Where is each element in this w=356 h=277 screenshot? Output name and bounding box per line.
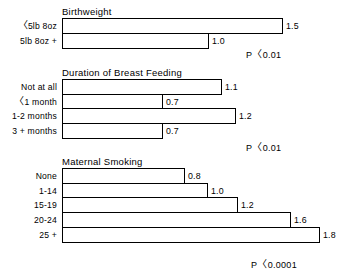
category-label: 25 + — [0, 227, 60, 243]
bar-value-label: 1.0 — [209, 33, 225, 49]
bar-value-label: 1.8 — [320, 227, 336, 243]
less-than-glyph: 〈 — [252, 142, 262, 153]
category-label: 1-2 months — [0, 108, 60, 124]
category-label: Not at all — [0, 79, 60, 95]
bar — [62, 212, 291, 228]
bar-value-label: 1.6 — [291, 212, 307, 228]
bar — [62, 94, 163, 110]
category-label: 〈5lb 8oz — [0, 18, 60, 34]
bar — [62, 33, 209, 49]
bar-row: 5lb 8oz +1.0 — [0, 33, 356, 49]
panel-title: Maternal Smoking — [62, 156, 143, 167]
category-label: 15-19 — [0, 197, 60, 213]
bar-row: 15-191.2 — [0, 197, 356, 213]
bar — [62, 123, 163, 139]
bar-row: None0.8 — [0, 168, 356, 184]
bar-value-label: 0.8 — [185, 168, 201, 184]
category-label: 1-14 — [0, 183, 60, 199]
bar-value-label: 0.7 — [163, 123, 179, 139]
bar-row: 1-2 months1.2 — [0, 108, 356, 124]
less-than-glyph: 〈 — [257, 259, 267, 270]
bar — [62, 197, 238, 213]
bar-value-label: 1.5 — [283, 18, 299, 34]
bar — [62, 183, 208, 199]
category-label: 3 + months — [0, 123, 60, 139]
bar-value-label: 0.7 — [163, 94, 179, 110]
panel-title: Duration of Breast Feeding — [62, 67, 182, 78]
category-label: 5lb 8oz + — [0, 33, 60, 49]
category-label: 〈1 month — [0, 94, 60, 110]
bar-value-label: 1.1 — [222, 79, 238, 95]
less-than-glyph: 〈 — [18, 20, 28, 31]
panel-rows: None0.81-141.015-191.220-241.625 +1.8 — [0, 168, 356, 243]
bar — [62, 79, 222, 95]
p-value-annotation: P〈0.01 — [246, 46, 281, 61]
less-than-glyph: 〈 — [252, 49, 262, 60]
bar — [62, 168, 185, 184]
bar-value-label: 1.2 — [238, 197, 254, 213]
category-label: None — [0, 168, 60, 184]
category-label: 20-24 — [0, 212, 60, 228]
p-value-annotation: P〈0.0001 — [251, 256, 297, 271]
bar-chart-figure: Birthweight〈5lb 8oz1.55lb 8oz +1.0P〈0.01… — [0, 0, 356, 277]
bar-value-label: 1.0 — [208, 183, 224, 199]
bar-row: Not at all1.1 — [0, 79, 356, 95]
bar-value-label: 1.2 — [236, 108, 252, 124]
bar-row: 1-141.0 — [0, 183, 356, 199]
bar — [62, 108, 236, 124]
bar-row: 25 +1.8 — [0, 227, 356, 243]
panel-rows: 〈5lb 8oz1.55lb 8oz +1.0 — [0, 18, 356, 49]
panel-rows: Not at all1.1〈1 month0.71-2 months1.23 +… — [0, 79, 356, 139]
panel-title: Birthweight — [62, 6, 112, 17]
bar-row: 〈1 month0.7 — [0, 94, 356, 110]
p-value-annotation: P〈0.01 — [246, 139, 281, 154]
bar — [62, 18, 283, 34]
bar-row: 3 + months0.7 — [0, 123, 356, 139]
bar-row: 〈5lb 8oz1.5 — [0, 18, 356, 34]
less-than-glyph: 〈 — [14, 96, 24, 107]
bar — [62, 227, 320, 243]
bar-row: 20-241.6 — [0, 212, 356, 228]
